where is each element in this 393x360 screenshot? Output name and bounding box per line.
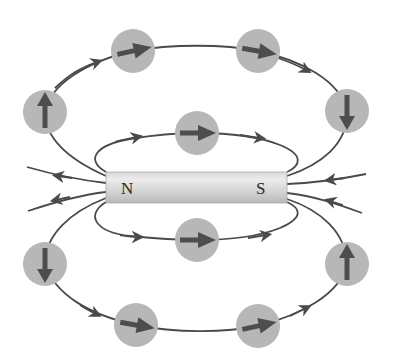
- compass-outer-top-left: [23, 90, 67, 134]
- compass-outer-top-right: [325, 89, 369, 133]
- magnetic-field-diagram: N S: [0, 0, 393, 360]
- field-lines-right-end: [287, 174, 366, 213]
- field-line-outer-bottom: [45, 198, 347, 331]
- compass-outer-bottom-left: [23, 242, 67, 286]
- compass-inner-bottom: [175, 218, 219, 262]
- compass-inner-top: [175, 111, 219, 155]
- bar-magnet: N S: [106, 172, 287, 203]
- compass-outer-bottom-right: [325, 242, 369, 286]
- compass-outer-bottom-mid-right: [236, 304, 280, 348]
- south-pole-label: S: [256, 179, 265, 198]
- compass-outer-top-mid-right: [236, 29, 280, 73]
- compass-outer-bottom-mid-left: [114, 303, 158, 347]
- field-lines-left-end: [27, 167, 106, 211]
- north-pole-label: N: [121, 179, 133, 198]
- field-line-outer-top: [45, 46, 347, 176]
- compass-outer-top-mid-left: [111, 29, 155, 73]
